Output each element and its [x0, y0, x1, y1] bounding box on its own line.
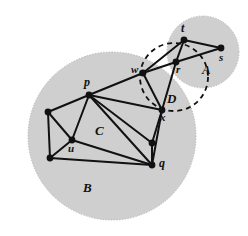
- vertex-l1: [45, 109, 52, 116]
- vertex-t: [181, 37, 188, 44]
- vertex-label-w: w: [131, 64, 138, 75]
- vertex-label-p: p: [84, 76, 90, 88]
- region-label-D: D: [167, 92, 176, 105]
- vertex-w: [140, 70, 147, 77]
- vertex-label-t: t: [181, 22, 184, 34]
- vertex-label-q: q: [159, 157, 165, 169]
- region-label-B: B: [83, 181, 92, 194]
- disk-A: [167, 16, 239, 88]
- label-C: C: [95, 124, 104, 137]
- vertex-label-x: x: [160, 112, 166, 123]
- regions-layer: [28, 16, 239, 220]
- vertex-label-u: u: [68, 143, 74, 154]
- vertex-l2: [47, 155, 54, 162]
- vertex-q: [149, 162, 156, 169]
- region-label-A: A: [202, 63, 211, 76]
- figure-canvas: puqxwrtsBADC: [0, 0, 248, 236]
- vertex-label-r: r: [176, 64, 180, 75]
- diagram-svg: [0, 0, 248, 236]
- vertex-m: [149, 140, 156, 147]
- vertex-p: [86, 92, 93, 99]
- vertex-label-s: s: [219, 52, 223, 63]
